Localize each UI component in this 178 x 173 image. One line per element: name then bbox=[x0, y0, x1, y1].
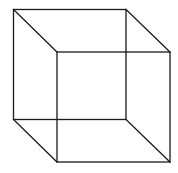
cube-edge-top-left bbox=[14, 10, 58, 53]
cube-edge-top-right bbox=[126, 10, 170, 53]
necker-cube-diagram bbox=[0, 0, 178, 173]
cube-edge-bottom-left bbox=[14, 120, 58, 163]
cube-edge-bottom-right bbox=[126, 120, 170, 163]
